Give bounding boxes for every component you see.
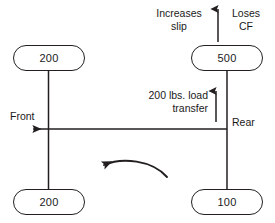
corner-weight-front-left: 200	[13, 45, 85, 71]
label-front: Front	[10, 110, 35, 123]
label-rear: Rear	[232, 116, 255, 129]
corner-weight-rear-right: 100	[191, 189, 263, 215]
label-increases-slip: Increases slip	[150, 7, 208, 33]
corner-weight-rear-left: 500	[191, 45, 263, 71]
load-transfer-diagram: 200 500 200 100 Increases slip Loses CF …	[0, 0, 275, 223]
label-load-transfer: 200 lbs. load transfer	[120, 89, 208, 115]
corner-weight-front-right: 200	[13, 189, 85, 215]
yaw-rotation-arrow	[104, 161, 167, 177]
label-loses-cf: Loses CF	[224, 7, 268, 33]
